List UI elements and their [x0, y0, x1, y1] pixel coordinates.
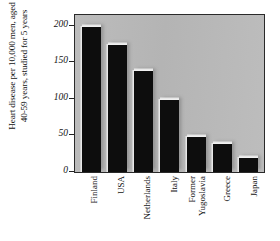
bar-chart-figure: Heart disease per 10,000 men, aged 40-59… — [0, 0, 280, 241]
x-label-greece-line-1: Greece — [223, 176, 233, 201]
x-label-former-yugoslavia: Former Yugoslavia — [187, 176, 206, 216]
x-label-netherlands: Netherlands — [143, 176, 153, 219]
bar-former-yugoslavia — [187, 136, 206, 173]
x-label-usa-line-1: USA — [117, 176, 127, 194]
bar-slot-japan — [236, 15, 262, 172]
y-tick-label-200: 200 — [42, 20, 68, 29]
x-label-former-yugoslavia-line-1: Former — [187, 176, 197, 216]
x-label-finland-line-1: Finland — [90, 176, 100, 204]
y-axis-title-line-1: Heart disease per 10,000 men, aged — [6, 0, 18, 151]
y-axis-title-line-2: 40-59 years, studied for 5 years — [18, 0, 30, 151]
bar-slot-usa — [104, 15, 130, 172]
x-slot-finland: Finland — [77, 176, 104, 241]
x-label-italy: Italy — [170, 176, 180, 193]
x-slot-former-yugoslavia: Former Yugoslavia — [183, 176, 210, 241]
y-axis-title: Heart disease per 10,000 men, aged 40-59… — [6, 0, 34, 151]
bar-usa — [108, 44, 127, 172]
x-axis-category-labels: Finland USA Netherlands Italy Former Yug… — [74, 176, 265, 241]
x-label-italy-line-1: Italy — [170, 176, 180, 193]
x-label-japan-line-1: Japan — [250, 176, 260, 197]
bar-finland — [82, 26, 101, 172]
bar-japan — [239, 157, 258, 172]
bar-slot-former-yugoslavia — [183, 15, 209, 172]
y-axis-tick-labels: 200 150 100 50 0 — [42, 0, 68, 241]
bar-italy — [160, 99, 179, 172]
bar-slot-greece — [209, 15, 235, 172]
x-label-japan: Japan — [250, 176, 260, 197]
y-tick-label-50: 50 — [42, 129, 68, 138]
x-label-finland: Finland — [90, 176, 100, 204]
y-tick-label-0: 0 — [42, 166, 68, 175]
x-slot-greece: Greece — [210, 176, 237, 241]
x-label-usa: USA — [117, 176, 127, 194]
bar-slot-finland — [78, 15, 104, 172]
x-slot-japan: Japan — [236, 176, 263, 241]
x-slot-netherlands: Netherlands — [130, 176, 157, 241]
bar-slot-netherlands — [131, 15, 157, 172]
plot-area — [74, 14, 265, 173]
x-slot-italy: Italy — [157, 176, 184, 241]
bar-netherlands — [134, 70, 153, 172]
x-label-netherlands-line-1: Netherlands — [143, 176, 153, 219]
bar-slot-italy — [157, 15, 183, 172]
y-tick-label-150: 150 — [42, 56, 68, 65]
bar-series — [75, 15, 264, 172]
x-slot-usa: USA — [104, 176, 131, 241]
bar-greece — [213, 143, 232, 172]
x-label-greece: Greece — [223, 176, 233, 201]
y-tick-label-100: 100 — [42, 93, 68, 102]
x-label-former-yugoslavia-line-2: Yugoslavia — [197, 176, 207, 216]
